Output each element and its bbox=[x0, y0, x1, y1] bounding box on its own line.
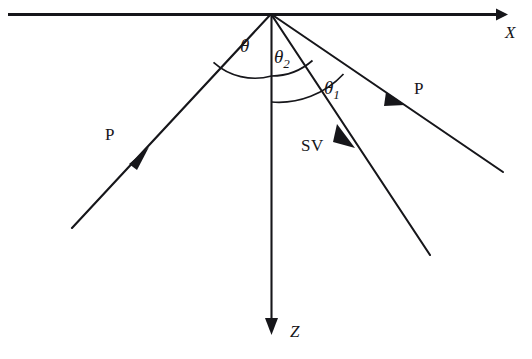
theta1-angle-subscript: 1 bbox=[333, 87, 340, 102]
theta2-angle-label: θ2 bbox=[274, 47, 290, 70]
theta-angle-arc bbox=[214, 62, 272, 78]
converted-sv-ray-label: SV bbox=[301, 137, 324, 154]
theta2-angle-symbol: θ bbox=[274, 46, 283, 67]
incident-p-ray-label: P bbox=[105, 126, 115, 143]
z-axis-label: Z bbox=[290, 323, 299, 340]
theta2-angle-subscript: 2 bbox=[283, 56, 290, 71]
x-axis-arrowhead-icon bbox=[496, 9, 508, 21]
theta-angle-label: θ bbox=[240, 36, 249, 55]
theta1-angle-symbol: θ bbox=[324, 77, 333, 98]
x-axis bbox=[8, 9, 508, 21]
z-axis-arrowhead-icon bbox=[265, 318, 278, 335]
converted-sv-ray-line bbox=[271, 14, 430, 255]
ray-diagram-figure: X Z P P SV θ θ2 θ1 bbox=[0, 0, 532, 359]
theta-angle-symbol: θ bbox=[240, 35, 249, 56]
theta1-angle-label: θ1 bbox=[324, 78, 340, 101]
converted-sv-ray bbox=[271, 14, 430, 255]
reflected-p-arrowhead-icon bbox=[384, 92, 405, 106]
ray-diagram-canvas bbox=[0, 0, 532, 359]
incident-p-arrowhead-icon bbox=[129, 147, 149, 170]
x-axis-label: X bbox=[505, 24, 515, 41]
reflected-p-ray-label: P bbox=[414, 80, 424, 97]
